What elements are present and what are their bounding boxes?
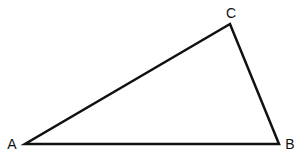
triangle-svg: A B C (0, 0, 302, 154)
triangle-diagram: A B C (0, 0, 302, 154)
triangle-abc (25, 24, 279, 144)
vertex-label-c: C (226, 5, 236, 21)
vertex-label-a: A (7, 136, 17, 152)
vertex-label-b: B (285, 136, 294, 152)
